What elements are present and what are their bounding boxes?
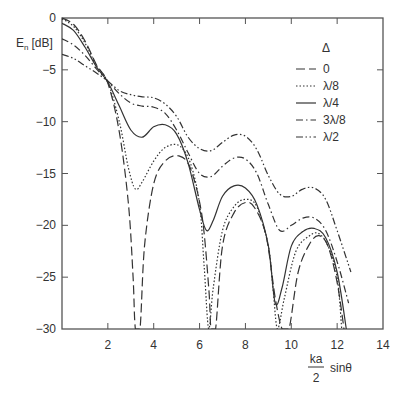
svg-text:sinθ: sinθ: [330, 361, 352, 375]
y-tick-label: −15: [36, 167, 57, 181]
x-tick-label: 6: [196, 338, 203, 352]
svg-text:ka: ka: [310, 352, 323, 366]
legend-item-label: 3λ/8: [323, 113, 346, 127]
x-axis-label: ka 2 sinθ: [308, 352, 352, 385]
legend-title: Δ: [322, 41, 330, 55]
x-tick-label: 14: [376, 338, 390, 352]
chart: 24681012140−5−10−15−20−25−30 En[dB] ka 2…: [0, 0, 403, 402]
y-axis-label: En[dB]: [16, 36, 53, 52]
x-tick-label: 8: [242, 338, 249, 352]
curves: [62, 18, 351, 329]
series-curve: [62, 18, 344, 329]
axis-ticks: 24681012140−5−10−15−20−25−30: [36, 11, 390, 352]
legend-item-label: 0: [323, 62, 330, 76]
x-tick-label: 2: [105, 338, 112, 352]
series-curve: [62, 54, 351, 272]
y-tick-label: −25: [36, 270, 57, 284]
legend: Δ 0λ/8λ/43λ/8λ/2: [296, 41, 346, 144]
plot-border: [62, 18, 383, 329]
y-tick-label: 0: [49, 11, 56, 25]
series-curve: [62, 19, 342, 329]
svg-text:2: 2: [313, 371, 320, 385]
x-tick-label: 10: [285, 338, 299, 352]
y-tick-label: −10: [36, 115, 57, 129]
legend-item-label: λ/2: [323, 130, 339, 144]
legend-item-label: λ/8: [323, 79, 339, 93]
plot-frame: [62, 18, 383, 329]
y-tick-label: −5: [42, 63, 56, 77]
x-tick-label: 12: [330, 338, 344, 352]
y-tick-label: −20: [36, 218, 57, 232]
legend-item-label: λ/4: [323, 96, 339, 110]
x-tick-label: 4: [150, 338, 157, 352]
y-tick-label: −30: [36, 322, 57, 336]
